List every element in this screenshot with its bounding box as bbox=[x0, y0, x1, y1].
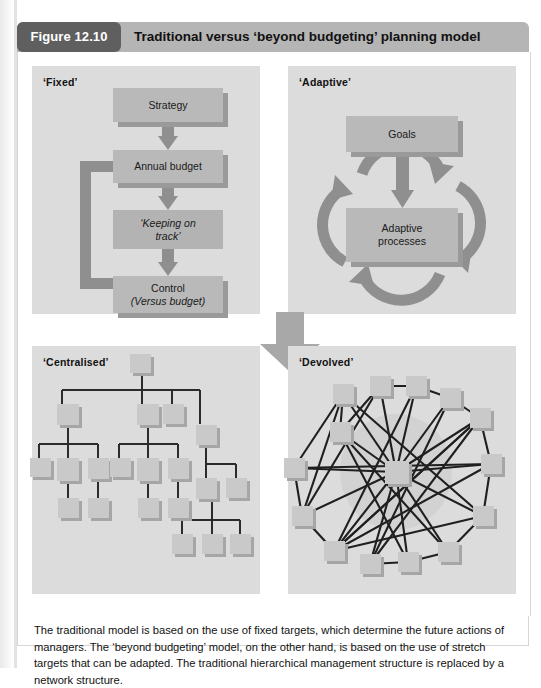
network-node bbox=[370, 376, 391, 396]
network-node bbox=[284, 458, 305, 478]
box-annual-budget: Annual budget bbox=[113, 150, 223, 183]
network-node bbox=[473, 506, 494, 526]
tree-node bbox=[130, 354, 151, 373]
box-strategy: Strategy bbox=[113, 88, 223, 122]
tree-node bbox=[230, 534, 251, 554]
figure-container: Figure 12.10 Traditional versus ‘beyond … bbox=[17, 22, 529, 646]
tree-node bbox=[88, 458, 109, 479]
network-node bbox=[360, 554, 381, 574]
figure-number-badge: Figure 12.10 bbox=[17, 22, 121, 52]
tree-node bbox=[163, 404, 184, 424]
quadrant-centralised: ‘Centralised’ bbox=[32, 346, 260, 594]
tree-node bbox=[202, 534, 223, 554]
tree-node bbox=[88, 498, 109, 518]
quadrant-adaptive: ‘Adaptive’ bbox=[288, 66, 516, 314]
tree-node bbox=[58, 498, 79, 518]
network-node bbox=[440, 388, 461, 408]
tree-node bbox=[226, 478, 247, 498]
quadrant-devolved: ‘Devolved’ bbox=[288, 346, 516, 594]
network-node bbox=[470, 408, 491, 428]
figure-title: Traditional versus ‘beyond budgeting’ pl… bbox=[134, 22, 481, 52]
network-node bbox=[324, 541, 345, 561]
adaptive-cycle-arrows bbox=[288, 66, 516, 314]
network-node bbox=[398, 552, 419, 572]
tree-node bbox=[172, 534, 193, 554]
box-goals: Goals bbox=[346, 116, 458, 152]
tree-node bbox=[196, 478, 217, 499]
box-keeping-on-track: ‘Keeping on track’ bbox=[113, 210, 223, 249]
tree-node bbox=[137, 458, 159, 481]
figure-header-band: Figure 12.10 Traditional versus ‘beyond … bbox=[17, 22, 529, 52]
tree-node bbox=[137, 404, 159, 425]
cycle-arrow-left bbox=[323, 190, 345, 262]
network-node bbox=[438, 542, 459, 562]
figure-caption-text: The traditional model is based on the us… bbox=[34, 622, 516, 688]
figure-body: ‘Fixed’ bbox=[17, 52, 531, 616]
box-control: Control (Versus budget) bbox=[113, 276, 223, 313]
tree-node bbox=[57, 458, 79, 481]
network-hub-node bbox=[385, 461, 409, 484]
quadrant-fixed: ‘Fixed’ bbox=[32, 66, 260, 314]
tree-node bbox=[138, 498, 159, 518]
tree-node bbox=[57, 404, 79, 425]
tree-node bbox=[168, 458, 189, 479]
tree-node bbox=[30, 458, 51, 477]
network-node bbox=[330, 422, 351, 442]
page-left-edge bbox=[0, 0, 14, 668]
cycle-arrow-right bbox=[458, 186, 480, 258]
network-node bbox=[292, 506, 313, 526]
tree-node bbox=[110, 458, 131, 477]
network-node bbox=[481, 454, 502, 474]
box-adaptive-processes: Adaptive processes bbox=[346, 208, 458, 262]
cycle-arrow-bottom bbox=[364, 274, 440, 300]
tree-node bbox=[168, 498, 189, 518]
network-node bbox=[333, 384, 354, 404]
network-node bbox=[406, 376, 427, 396]
tree-node bbox=[196, 425, 217, 445]
